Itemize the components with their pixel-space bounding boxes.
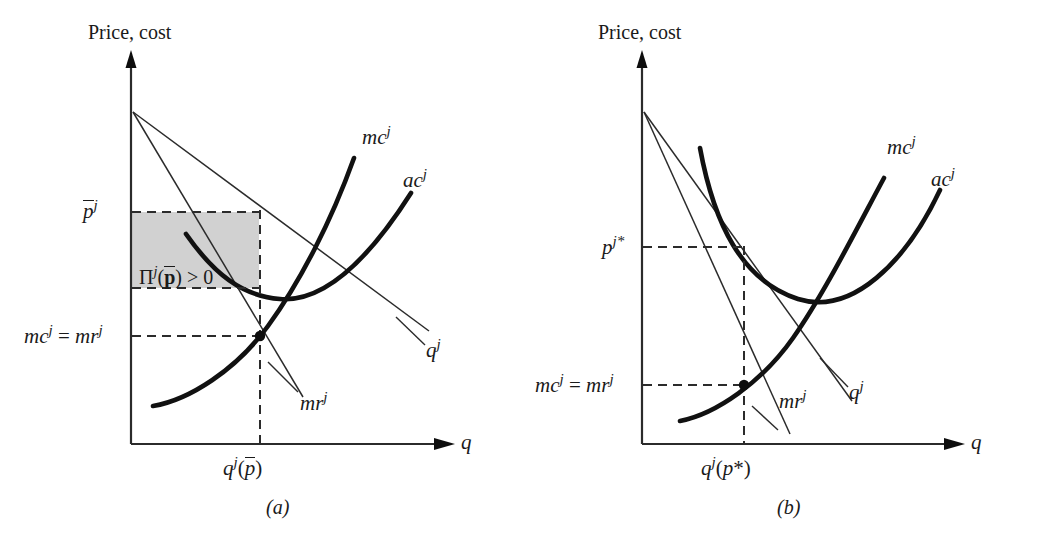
panel-b-ac-curve-label: acj (931, 166, 955, 190)
panel-b-mr-leader (752, 406, 778, 430)
paren-close: ) (744, 456, 751, 480)
superscript-j: j (387, 123, 391, 139)
ac-text: ac (403, 168, 423, 192)
panel-a-x-axis-arrow (434, 438, 455, 450)
panel-b-x-tick-label: qj(p*) (701, 455, 751, 479)
panel-a-demand-leader (396, 317, 425, 345)
panel-b-caption: (b) (777, 497, 800, 517)
superscript-j: j (437, 336, 441, 352)
panel-b-equilibrium-point (739, 380, 749, 390)
panel-b-demand-curve (644, 112, 852, 401)
pi-symbol: Π (139, 266, 153, 288)
mr-text: mr (300, 391, 323, 415)
superscript-j: j (802, 387, 806, 403)
p-bar-glyph: p (245, 457, 256, 479)
panel-b-x-axis-arrow (944, 438, 965, 450)
panel-a-mr-curve-label: mrj (300, 390, 328, 414)
bold-p-bar-glyph: p (164, 266, 175, 287)
superscript-j: j (423, 166, 427, 182)
q-glyph: q (849, 380, 860, 404)
panel-a-mr-leader (268, 362, 298, 392)
paren-open: ( (157, 266, 164, 288)
mc-text: mc (24, 324, 49, 348)
superscript-j: j (323, 389, 327, 405)
superscript-j-star: j* (613, 233, 625, 249)
panel-a-y-axis-arrow (126, 50, 137, 68)
greater-than-zero: > 0 (182, 266, 213, 288)
panel-b-y-axis-label: Price, cost (598, 22, 681, 42)
star-glyph: * (733, 456, 744, 480)
paren-open: ( (716, 456, 723, 480)
panel-a-demand-curve-label: qj (426, 337, 441, 361)
mr-text: mr (586, 373, 609, 397)
mc-text: mc (887, 135, 912, 159)
panel-a-x-tick-label: qj(p) (223, 455, 262, 479)
superscript-j: j (912, 133, 916, 149)
mc-text: mc (362, 125, 387, 149)
p-glyph: p (723, 456, 734, 480)
paren-close: ) (175, 266, 182, 288)
p-glyph: p (602, 235, 613, 259)
superscript-j: j (94, 197, 98, 213)
panel-a-profit-label: Πj(p) > 0 (139, 264, 213, 287)
superscript-j: j (860, 378, 864, 394)
mr-text: mr (75, 324, 98, 348)
panel-b-mr-curve-label: mrj (779, 388, 807, 412)
panel-b-mcmr-tick-label: mcj = mrj (535, 372, 614, 396)
panel-b-ac-curve (700, 148, 940, 302)
q-glyph: q (701, 456, 712, 480)
mr-text: mr (779, 389, 802, 413)
superscript-j: j (98, 322, 102, 338)
equals-sign: = (53, 324, 75, 348)
panel-b-demand-curve-label: qj (849, 379, 864, 403)
superscript-j: j (609, 371, 613, 387)
panel-a-caption: (a) (266, 497, 289, 517)
panel-a-graphics (126, 50, 456, 450)
mc-text: mc (535, 373, 560, 397)
paren-close: ) (255, 456, 262, 480)
panel-a-mc-curve-label: mcj (362, 124, 391, 148)
panel-a-mcmr-tick-label: mcj = mrj (24, 323, 103, 347)
panel-a-ac-curve-label: acj (403, 167, 427, 191)
figure-container: Price, cost q pj mcj = mrj Πj(p) > 0 qj(… (0, 0, 1038, 546)
equals-sign: = (564, 373, 586, 397)
panel-b-y-axis-arrow (637, 50, 648, 68)
panel-a-x-axis-label: q (461, 432, 472, 453)
panel-a-price-tick-label: pj (83, 198, 98, 222)
paren-open: ( (238, 456, 245, 480)
panel-a-equilibrium-point (255, 331, 265, 341)
q-glyph: q (426, 338, 437, 362)
p-bar-glyph: p (83, 200, 94, 222)
panel-b-price-tick-label: pj* (602, 234, 624, 258)
panel-b-mc-curve-label: mcj (887, 134, 916, 158)
panel-a-y-axis-label: Price, cost (88, 22, 171, 42)
panel-b-x-axis-label: q (971, 432, 982, 453)
panel-b-demand-leader (820, 358, 848, 387)
q-glyph: q (223, 456, 234, 480)
superscript-j: j (951, 165, 955, 181)
ac-text: ac (931, 167, 951, 191)
